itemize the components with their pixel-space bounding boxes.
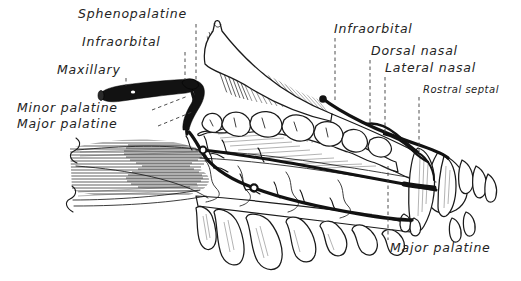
figure-canvas: Sphenopalatine Infraorbital Maxillary Mi…	[0, 0, 521, 281]
label-infraorbital-right: Infraorbital	[334, 21, 413, 36]
incisor-1	[459, 160, 474, 194]
infraorbital-artery-origin-stump	[319, 95, 327, 103]
leader-minor-palatine	[152, 96, 188, 110]
label-maxillary: Maxillary	[57, 62, 121, 77]
label-major-palatine-bottom: Major palatine	[390, 240, 491, 255]
cranial-vault-outline	[204, 21, 334, 122]
label-rostral-septal: Rostral septal	[423, 84, 499, 95]
label-dorsal-nasal: Dorsal nasal	[371, 43, 458, 58]
label-lateral-nasal: Lateral nasal	[385, 60, 476, 75]
incisor-3	[485, 174, 497, 202]
maxillary-teeth-upper	[202, 112, 391, 157]
incisor-lower-1	[449, 218, 461, 242]
maxillary-artery-cut-end	[98, 91, 104, 101]
label-major-palatine-left: Major palatine	[17, 116, 118, 131]
artery-highlight-nick	[131, 91, 135, 94]
septal-vessel-cut-stump	[200, 147, 207, 154]
anatomical-figure: Sphenopalatine Infraorbital Maxillary Mi…	[0, 0, 521, 281]
label-minor-palatine: Minor palatine	[17, 100, 118, 115]
label-infraorbital-left: Infraorbital	[82, 34, 161, 49]
label-sphenopalatine: Sphenopalatine	[78, 6, 187, 21]
incisor-lower-2	[463, 212, 475, 236]
